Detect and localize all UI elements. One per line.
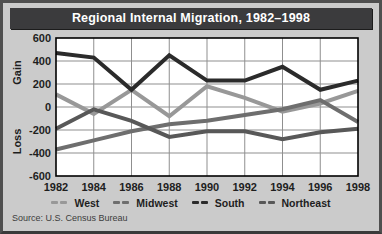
y-axis-label-gain: Gain (11, 60, 23, 85)
legend-label: Northeast (282, 197, 331, 209)
x-tick-label: 1984 (82, 181, 107, 193)
legend-swatch-south-icon (192, 201, 210, 205)
chart-legend: WestMidwestSouthNortheast (8, 195, 374, 210)
x-tick-label: 1982 (44, 181, 68, 193)
y-tick-label: 400 (33, 55, 51, 67)
legend-swatch-northeast-icon (259, 201, 277, 205)
x-tick-label: 1992 (233, 181, 257, 193)
chart-area: 6004002000-200-400-600198219841986198819… (8, 32, 376, 195)
y-tick-label: 200 (33, 78, 51, 90)
migration-line-chart: 6004002000-200-400-600198219841986198819… (8, 32, 376, 195)
y-tick-label: -400 (29, 147, 51, 159)
legend-item-northeast: Northeast (259, 197, 331, 209)
y-tick-label: 600 (33, 32, 51, 44)
legend-swatch-midwest-icon (113, 201, 131, 205)
legend-item-midwest: Midwest (113, 197, 177, 209)
chart-title: Regional Internal Migration, 1982–1998 (10, 8, 372, 29)
x-tick-label: 1988 (157, 181, 181, 193)
x-tick-label: 1990 (195, 181, 219, 193)
y-tick-label: -200 (29, 124, 51, 136)
x-tick-label: 1986 (119, 181, 143, 193)
x-tick-label: 1996 (308, 181, 332, 193)
legend-label: Midwest (136, 197, 177, 209)
legend-item-west: West (51, 197, 99, 209)
x-tick-label: 1994 (270, 181, 295, 193)
source-attribution: Source: U.S. Census Bureau (12, 213, 374, 223)
legend-swatch-west-icon (51, 201, 69, 205)
y-axis-label-loss: Loss (11, 129, 23, 155)
legend-label: West (74, 197, 99, 209)
legend-label: South (215, 197, 245, 209)
migration-chart-panel: Regional Internal Migration, 1982–1998 6… (0, 0, 382, 234)
legend-item-south: South (192, 197, 245, 209)
x-tick-label: 1998 (346, 181, 370, 193)
y-tick-label: 0 (45, 101, 51, 113)
